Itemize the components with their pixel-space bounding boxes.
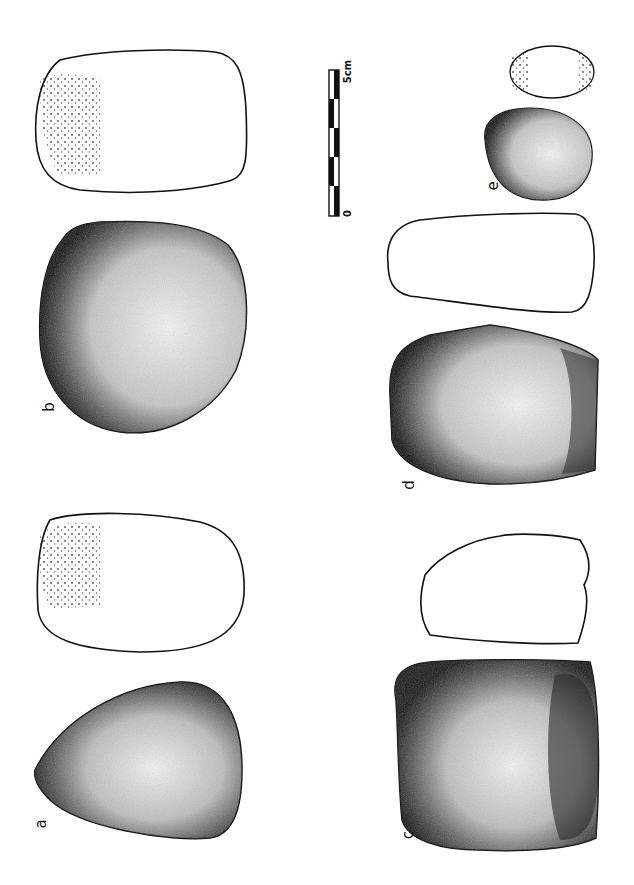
artifact-d bbox=[388, 213, 598, 484]
scale-bar bbox=[329, 70, 339, 216]
label-c: c bbox=[399, 831, 417, 839]
scale-start-label: 0 bbox=[342, 210, 353, 217]
artifact-e bbox=[485, 46, 594, 200]
label-e: e bbox=[484, 181, 502, 190]
artifact-b bbox=[36, 50, 247, 433]
artifact-c bbox=[395, 534, 599, 851]
label-d: d bbox=[400, 480, 418, 490]
label-b: b bbox=[40, 402, 58, 412]
artifact-d-outline bbox=[388, 213, 595, 312]
artifact-c-outline bbox=[421, 534, 589, 643]
artifact-a bbox=[35, 513, 245, 838]
scale-end-label: 5cm bbox=[342, 60, 353, 83]
label-a: a bbox=[32, 819, 50, 828]
artifact-plate bbox=[0, 0, 634, 885]
